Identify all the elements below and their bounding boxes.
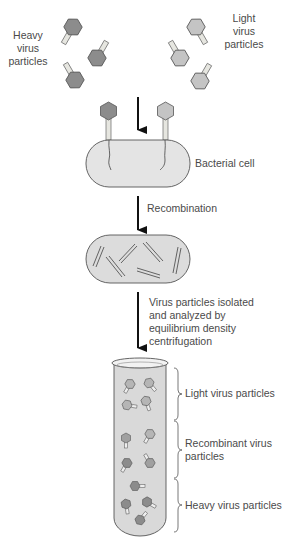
recombining-cell [86,235,190,283]
label-line: particles [185,450,272,463]
light-phage-icon [164,38,192,70]
label-line: Recombinant virus [185,437,272,450]
heavy-phage-icon [86,38,114,70]
heavy-virus-particles [57,15,114,92]
recombinant-band-label: Recombinant virus particles [185,437,272,463]
label-line: Heavy virus particles [185,499,282,512]
label-line: virus [6,42,50,55]
label-line: Light [222,12,266,25]
light-phage-icon [185,15,213,47]
light-virus-label: Light virus particles [222,12,266,51]
heavy-band-label: Heavy virus particles [185,499,282,512]
light-phage-icon [189,61,217,93]
heavy-phage-icon [57,15,85,47]
heavy-phage-icon [59,60,87,92]
label-line: Light virus particles [185,387,275,400]
label-line: particles [6,55,50,68]
label-line: particles [222,38,266,51]
light-phage-icon [158,102,174,140]
band-braces [174,368,182,532]
phage-recombination-diagram [0,0,301,549]
brace-light [174,368,182,420]
light-virus-particles [164,15,217,93]
brace-recombinant [174,421,182,478]
label-line: virus [222,25,266,38]
label-line: centrifugation [149,335,254,348]
bacterial-cell [86,140,190,187]
bacterial-cell-label: Bacterial cell [195,157,255,170]
heavy-virus-label: Heavy virus particles [6,29,50,68]
recombination-label: Recombination [147,202,217,215]
label-line: Heavy [6,29,50,42]
label-line: equilibrium density [149,322,254,335]
heavy-phage-icon [101,102,117,140]
centrifuge-tube [112,358,168,536]
light-band-label: Light virus particles [185,387,275,400]
label-line: and analyzed by [149,309,254,322]
brace-heavy [174,479,182,532]
isolation-label: Virus particles isolated and analyzed by… [149,296,254,348]
label-line: Virus particles isolated [149,296,254,309]
